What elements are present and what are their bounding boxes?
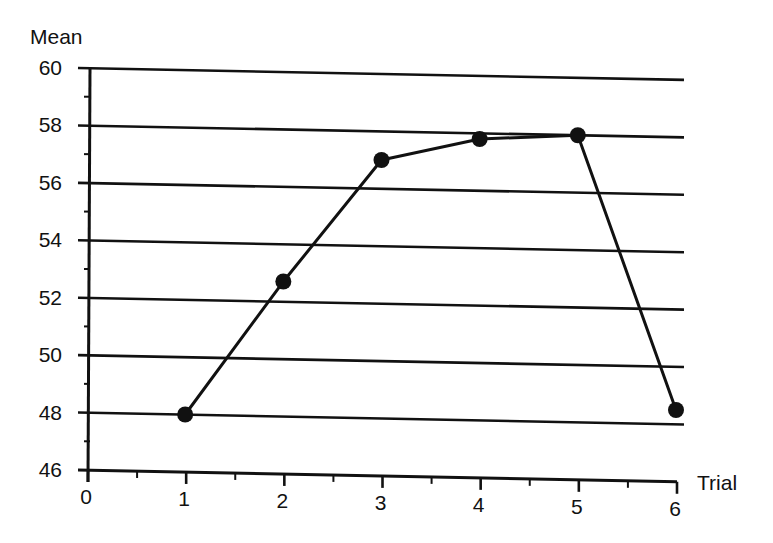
x-axis: 0123456 [78,470,681,520]
y-axis-title: Mean [30,25,83,48]
gridline [78,240,684,252]
data-point [472,131,488,147]
x-tick-label: 0 [80,485,92,508]
x-tick-label: 4 [473,493,485,516]
data-point [177,407,193,423]
data-point [668,402,684,418]
data-point [275,274,291,290]
y-tick-label: 48 [39,401,62,424]
y-tick-label: 56 [39,171,62,194]
data-markers [177,127,684,422]
data-point [374,152,390,168]
gridline [78,125,684,137]
x-axis-line [78,470,677,482]
y-tick-label: 46 [39,458,62,481]
gridline [78,68,684,80]
gridlines [78,68,684,424]
data-point [570,127,586,143]
y-tick-label: 58 [39,113,62,136]
x-tick-label: 6 [669,497,681,520]
x-tick-label: 5 [571,495,583,518]
y-tick-label: 60 [39,56,62,79]
x-axis-title: Trial [697,471,737,494]
x-tick-label: 3 [375,491,387,514]
x-tick-label: 2 [276,489,288,512]
x-tick-label: 1 [178,487,190,510]
gridline [78,355,684,367]
y-axis: 4648505254565860 [39,56,90,482]
data-line [185,135,676,414]
y-tick-label: 52 [39,286,62,309]
gridline [78,298,684,310]
y-axis-line [88,68,90,482]
y-tick-label: 54 [39,228,63,251]
y-tick-label: 50 [39,343,62,366]
gridline [78,413,684,425]
gridline [78,183,684,195]
line-chart: Mean Trial 4648505254565860 0123456 [0,0,773,543]
